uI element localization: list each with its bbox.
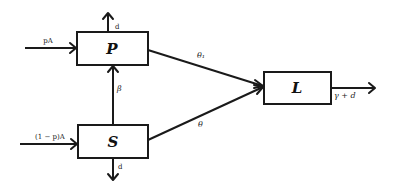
arrow-theta1-p-to-l: [148, 50, 263, 88]
compartment-diagram: P S L pA (1 − p)A d d β θ₁ θ: [0, 0, 394, 193]
node-s-label: S: [108, 133, 119, 151]
label-one-minus-pa: (1 − p)A: [35, 133, 66, 141]
label-theta: θ: [198, 120, 203, 129]
label-beta: β: [116, 84, 122, 93]
node-l-label: L: [291, 79, 303, 97]
label-gamma-d: γ + d: [334, 91, 356, 100]
arrow-s-death: [108, 158, 118, 180]
arrow-beta-s-to-p: [108, 66, 118, 125]
arrow-theta-s-to-l: [148, 85, 263, 140]
label-pa: pA: [43, 37, 53, 45]
label-theta1: θ₁: [197, 51, 205, 60]
arrow-p-death: [103, 13, 113, 32]
node-p-label: P: [105, 40, 118, 58]
label-d-p: d: [115, 23, 120, 31]
label-d-s: d: [118, 163, 123, 171]
